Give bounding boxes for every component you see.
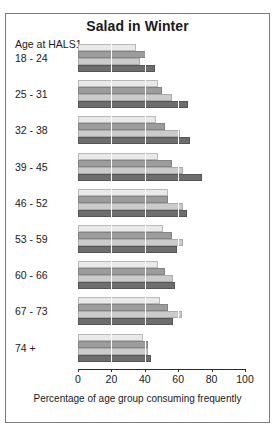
x-tick-label: 20 bbox=[96, 373, 126, 385]
x-tick-label: 80 bbox=[197, 373, 227, 385]
bar bbox=[78, 174, 202, 181]
bar-group bbox=[78, 44, 245, 72]
y-axis-tick-label: 67 - 73 bbox=[6, 305, 72, 317]
bar bbox=[78, 261, 158, 268]
bar bbox=[78, 304, 168, 311]
x-tick-100 bbox=[245, 369, 246, 372]
bar bbox=[78, 311, 182, 318]
x-tick-0 bbox=[78, 369, 79, 372]
x-tick-label: 60 bbox=[163, 373, 193, 385]
bar bbox=[78, 355, 151, 362]
y-axis-title: Age at HALS1 bbox=[6, 38, 82, 50]
gridline-20 bbox=[111, 43, 112, 369]
bar bbox=[78, 80, 158, 87]
bar bbox=[78, 246, 177, 253]
x-tick-label: 100 bbox=[230, 373, 260, 385]
bar bbox=[78, 189, 168, 196]
chart-frame: Salad in Winter Age at HALS1 18 - 2425 -… bbox=[5, 13, 270, 423]
plot-area bbox=[78, 43, 245, 369]
bar bbox=[78, 167, 183, 174]
bar bbox=[78, 123, 165, 130]
bar bbox=[78, 87, 162, 94]
bar-group bbox=[78, 116, 245, 144]
bar bbox=[78, 94, 172, 101]
bar-group bbox=[78, 297, 245, 325]
gridline-40 bbox=[145, 43, 146, 369]
bar bbox=[78, 196, 168, 203]
gridline-60 bbox=[178, 43, 179, 369]
chart-title: Salad in Winter bbox=[6, 18, 269, 34]
y-axis-tick-label: 46 - 52 bbox=[6, 197, 72, 209]
bar bbox=[78, 153, 158, 160]
y-axis-tick-label: 18 - 24 bbox=[6, 52, 72, 64]
bar bbox=[78, 58, 140, 65]
bar bbox=[78, 275, 173, 282]
bar bbox=[78, 282, 175, 289]
x-tick-label: 0 bbox=[63, 373, 93, 385]
x-tick-60 bbox=[178, 369, 179, 372]
x-tick-80 bbox=[212, 369, 213, 372]
bar-group bbox=[78, 225, 245, 253]
x-tick-20 bbox=[111, 369, 112, 372]
x-axis-line bbox=[78, 369, 245, 370]
bar bbox=[78, 130, 180, 137]
bar bbox=[78, 44, 136, 51]
bar bbox=[78, 225, 163, 232]
y-axis-tick-label: 25 - 31 bbox=[6, 88, 72, 100]
bar bbox=[78, 160, 172, 167]
bar bbox=[78, 239, 183, 246]
bar-group bbox=[78, 80, 245, 108]
y-axis-tick-label: 74 + bbox=[6, 342, 72, 354]
y-axis-tick-label: 60 - 66 bbox=[6, 269, 72, 281]
bar bbox=[78, 268, 165, 275]
x-axis-title: Percentage of age group consuming freque… bbox=[6, 393, 269, 404]
bar-group bbox=[78, 189, 245, 217]
x-tick-label: 40 bbox=[130, 373, 160, 385]
x-tick-40 bbox=[145, 369, 146, 372]
bar bbox=[78, 101, 188, 108]
bar bbox=[78, 203, 183, 210]
bar bbox=[78, 137, 190, 144]
y-axis-tick-label: 39 - 45 bbox=[6, 161, 72, 173]
bar bbox=[78, 318, 173, 325]
bar bbox=[78, 232, 172, 239]
bar-group bbox=[78, 153, 245, 181]
gridline-80 bbox=[212, 43, 213, 369]
bar bbox=[78, 297, 160, 304]
bar-group bbox=[78, 261, 245, 289]
bar bbox=[78, 210, 187, 217]
bar-group bbox=[78, 334, 245, 362]
bar bbox=[78, 65, 155, 72]
y-axis-tick-label: 32 - 38 bbox=[6, 124, 72, 136]
bar bbox=[78, 341, 148, 348]
bar bbox=[78, 348, 148, 355]
y-axis-tick-label: 53 - 59 bbox=[6, 233, 72, 245]
